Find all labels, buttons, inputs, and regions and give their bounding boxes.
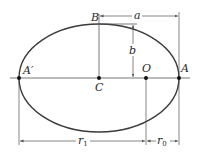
label-b-point: B [90, 11, 99, 24]
point-c [97, 76, 101, 80]
label-a-point: A [180, 62, 189, 75]
label-a: a [134, 9, 141, 22]
point-a-prime [17, 76, 21, 80]
label-b: b [129, 44, 136, 57]
label-c: C [95, 81, 104, 94]
point-a [177, 76, 181, 80]
label-o: O [142, 62, 151, 75]
point-o [144, 76, 148, 80]
label-a-prime: A′ [22, 64, 34, 77]
ellipse-diagram: a b r1 r0 A′ C O A B [0, 0, 200, 155]
